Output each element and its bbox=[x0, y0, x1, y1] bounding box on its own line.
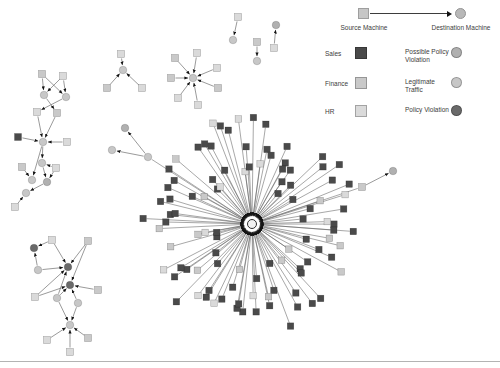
graph-node-hr[interactable] bbox=[118, 51, 125, 58]
graph-node-sales[interactable] bbox=[167, 196, 174, 203]
graph-node-finance[interactable] bbox=[254, 39, 261, 46]
graph-node-sales[interactable] bbox=[253, 309, 260, 316]
graph-node-legit[interactable] bbox=[38, 159, 46, 167]
graph-node-sales[interactable] bbox=[195, 144, 202, 151]
graph-node-sales[interactable] bbox=[203, 294, 210, 301]
graph-node-hr[interactable] bbox=[235, 14, 242, 21]
graph-node-sales[interactable] bbox=[320, 164, 327, 171]
graph-node-sales[interactable] bbox=[217, 123, 224, 130]
graph-node-legit[interactable] bbox=[74, 299, 82, 307]
graph-node-hr[interactable] bbox=[67, 349, 74, 356]
graph-node-finance[interactable] bbox=[167, 243, 174, 250]
graph-node-hr[interactable] bbox=[202, 229, 209, 236]
graph-node-sales[interactable] bbox=[340, 206, 347, 213]
graph-node-finance[interactable] bbox=[201, 193, 208, 200]
graph-node-sales[interactable] bbox=[316, 246, 323, 253]
graph-node-hr[interactable] bbox=[250, 292, 257, 299]
graph-node-legit[interactable] bbox=[62, 93, 70, 101]
graph-node-hr[interactable] bbox=[32, 294, 39, 301]
graph-node-sales[interactable] bbox=[331, 221, 338, 228]
graph-node-sales[interactable] bbox=[298, 270, 305, 277]
graph-node-sales[interactable] bbox=[350, 228, 357, 235]
graph-node-sales[interactable] bbox=[329, 177, 336, 184]
graph-node-sales[interactable] bbox=[300, 216, 307, 223]
graph-node-sales[interactable] bbox=[140, 215, 147, 222]
graph-node-legit[interactable] bbox=[144, 153, 152, 161]
graph-node-finance[interactable] bbox=[278, 257, 285, 264]
graph-node-sales[interactable] bbox=[266, 260, 273, 267]
graph-node-sales[interactable] bbox=[243, 143, 250, 150]
graph-node-sales[interactable] bbox=[328, 254, 335, 261]
graph-node-sales[interactable] bbox=[271, 287, 278, 294]
graph-node-sales[interactable] bbox=[319, 153, 326, 160]
graph-node-sales[interactable] bbox=[250, 114, 256, 121]
graph-node-hr[interactable] bbox=[217, 184, 224, 191]
graph-node-possible[interactable] bbox=[389, 167, 397, 175]
graph-node-hr[interactable] bbox=[211, 300, 218, 307]
graph-node-finance[interactable] bbox=[359, 184, 366, 191]
graph-node-hr[interactable] bbox=[53, 165, 60, 172]
graph-node-legit[interactable] bbox=[253, 57, 261, 65]
graph-node-hr[interactable] bbox=[342, 191, 349, 198]
graph-node-sales[interactable] bbox=[221, 167, 228, 174]
graph-node-hr[interactable] bbox=[64, 139, 71, 146]
graph-node-sales[interactable] bbox=[235, 301, 242, 308]
graph-node-sales[interactable] bbox=[213, 229, 220, 236]
graph-node-hr[interactable] bbox=[195, 292, 202, 299]
graph-node-sales[interactable] bbox=[284, 143, 291, 150]
graph-node-hr[interactable] bbox=[34, 109, 41, 116]
graph-node-hr[interactable] bbox=[49, 237, 56, 244]
graph-node-sales[interactable] bbox=[279, 179, 286, 186]
graph-node-sales[interactable] bbox=[266, 302, 273, 309]
graph-node-sales[interactable] bbox=[253, 275, 260, 282]
graph-node-finance[interactable] bbox=[172, 55, 179, 62]
graph-node-hr[interactable] bbox=[12, 204, 19, 211]
graph-node-finance[interactable] bbox=[337, 242, 344, 249]
graph-node-sales[interactable] bbox=[268, 152, 275, 159]
graph-node-legit[interactable] bbox=[119, 66, 127, 74]
graph-node-sales[interactable] bbox=[173, 298, 180, 305]
graph-node-legit[interactable] bbox=[229, 36, 237, 44]
graph-node-legit[interactable] bbox=[28, 176, 36, 184]
graph-node-sales[interactable] bbox=[293, 290, 300, 297]
graph-node-legit[interactable] bbox=[66, 321, 74, 329]
graph-node-finance[interactable] bbox=[19, 164, 26, 171]
graph-node-finance[interactable] bbox=[104, 85, 111, 92]
graph-node-sales[interactable] bbox=[208, 143, 215, 150]
graph-node-violation[interactable] bbox=[30, 244, 38, 252]
graph-node-sales[interactable] bbox=[225, 127, 232, 134]
graph-node-finance[interactable] bbox=[215, 85, 222, 92]
graph-node-sales[interactable] bbox=[201, 141, 208, 148]
graph-node-sales[interactable] bbox=[214, 260, 221, 267]
graph-node-sales[interactable] bbox=[309, 300, 316, 307]
graph-node-possible[interactable] bbox=[43, 178, 51, 186]
graph-node-legit[interactable] bbox=[40, 91, 48, 99]
graph-node-sales[interactable] bbox=[189, 193, 196, 200]
graph-node-finance[interactable] bbox=[85, 238, 92, 245]
graph-node-legit[interactable] bbox=[39, 138, 47, 146]
graph-node-sales[interactable] bbox=[184, 266, 191, 273]
graph-node-sales[interactable] bbox=[178, 265, 185, 272]
graph-node-sales[interactable] bbox=[209, 176, 216, 183]
graph-node-finance[interactable] bbox=[95, 287, 102, 294]
graph-node-finance[interactable] bbox=[338, 269, 345, 276]
graph-node-sales[interactable] bbox=[304, 259, 311, 266]
graph-node-sales[interactable] bbox=[287, 182, 294, 189]
graph-node-finance[interactable] bbox=[194, 267, 201, 274]
graph-node-sales[interactable] bbox=[290, 196, 297, 203]
graph-node-sales[interactable] bbox=[279, 166, 286, 173]
graph-node-sales[interactable] bbox=[317, 295, 324, 302]
graph-node-hr[interactable] bbox=[44, 337, 51, 344]
graph-node-hr[interactable] bbox=[194, 50, 201, 57]
graph-node-legit[interactable] bbox=[22, 189, 30, 197]
graph-node-sales[interactable] bbox=[263, 121, 270, 128]
graph-node-finance[interactable] bbox=[156, 225, 163, 232]
graph-node-hr[interactable] bbox=[257, 161, 264, 168]
graph-node-sales[interactable] bbox=[163, 219, 170, 226]
graph-node-finance[interactable] bbox=[173, 156, 180, 163]
graph-node-hr[interactable] bbox=[214, 65, 221, 72]
graph-node-finance[interactable] bbox=[168, 75, 175, 82]
graph-node-legit[interactable] bbox=[34, 266, 42, 274]
graph-node-sales[interactable] bbox=[287, 323, 294, 330]
graph-node-sales[interactable] bbox=[307, 205, 314, 212]
